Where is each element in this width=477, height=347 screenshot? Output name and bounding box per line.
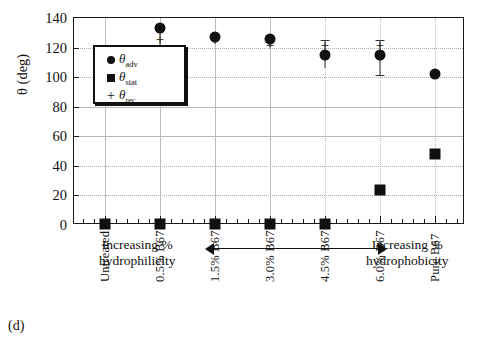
x-label-untreated: Untreated [98,231,113,282]
x-label-pure-b67: Pure B67 [428,234,443,282]
y-tickmark-20 [74,195,79,196]
gridline-x-1-5 [215,18,216,223]
double-arrow-icon [205,243,387,255]
y-tick-20: 20 [31,188,67,203]
x-label-0-5-b67: 0.5% B67 [153,230,168,282]
y-tickmark-100 [74,77,79,78]
point-adv-1-5 [210,32,221,43]
point-stat-pure [430,149,441,160]
y-tick-80: 80 [31,100,67,115]
point-stat-6-0 [375,184,386,195]
point-stat-1-5 [210,218,221,229]
figure-panel-d: θ (deg) 0 20 40 60 80 100 120 140 [0,0,477,347]
legend-label-adv: θadv [119,51,138,69]
y-tick-100: 100 [31,70,67,85]
gridline-y-20 [74,195,463,196]
y-tick-140: 140 [31,11,67,26]
legend-label-rec: θrec [119,87,136,105]
legend-item-adv: θadv [103,51,184,68]
legend-label-stat: θstat [119,69,137,87]
x-label-3-0-b67: 3.0% B67 [263,230,278,282]
y-axis-label: θ (deg) [14,54,31,95]
y-tick-120: 120 [31,41,67,56]
y-tickmark-60 [74,136,79,137]
point-rec-0-5: + [156,31,164,46]
legend: θadv θstat + θrec [93,45,186,104]
point-rec-6-0: + [376,37,384,52]
gridline-y-80 [74,107,463,108]
x-label-1-5-b67: 1.5% B67 [208,230,223,282]
point-rec-4-5: + [321,37,329,52]
y-tickmark-40 [74,166,79,167]
legend-item-stat: θstat [103,69,184,86]
gridline-x-pure [435,18,436,223]
y-tick-60: 60 [31,129,67,144]
point-rec-3-0: + [266,37,274,52]
plus-icon: + [103,89,119,103]
y-tickmark-120 [74,48,79,49]
x-tickmark-6-0 [380,216,381,223]
filled-circle-icon [103,56,119,64]
x-label-6-0-b67: 6.0% B67 [373,230,388,282]
plot-area: + + + + θadv [73,17,464,224]
point-stat-4-5 [320,218,331,229]
point-stat-3-0 [265,218,276,229]
x-tickmark-pure [435,216,436,223]
legend-item-rec: + θrec [103,87,184,104]
y-tickmark-80 [74,107,79,108]
y-tick-0: 0 [31,218,67,233]
gridline-y-40 [74,166,463,167]
gridline-y-60 [74,136,463,137]
point-stat-untreated [100,218,111,229]
filled-square-icon [103,74,119,82]
y-tick-40: 40 [31,159,67,174]
x-label-4-5-b67: 4.5% B67 [318,230,333,282]
point-stat-0-5 [155,218,166,229]
panel-label: (d) [8,318,24,334]
point-adv-pure [430,69,441,80]
